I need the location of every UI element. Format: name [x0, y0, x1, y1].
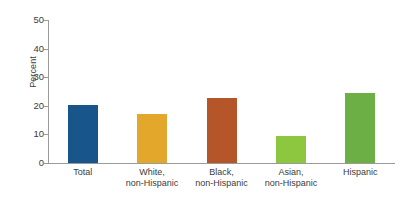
y-tick-label: 30 — [22, 72, 44, 82]
bar-chart: Percent 01020304050 TotalWhite,non-Hispa… — [0, 0, 407, 198]
y-tick-mark — [44, 20, 48, 21]
category-label-line1: Hispanic — [343, 167, 378, 177]
bar[interactable] — [68, 105, 98, 163]
bar[interactable] — [137, 114, 167, 163]
category-label-line1: Asian, — [278, 167, 303, 177]
y-tick-mark — [44, 106, 48, 107]
y-tick-mark — [44, 49, 48, 50]
category-label-line1: Black, — [209, 167, 234, 177]
y-tick-label: 40 — [22, 44, 44, 54]
plot-area — [48, 20, 395, 163]
y-tick-mark — [44, 77, 48, 78]
x-axis-category-label: Hispanic — [310, 167, 407, 178]
y-tick-label: 50 — [22, 15, 44, 25]
bar[interactable] — [207, 98, 237, 163]
y-tick-label: 10 — [22, 129, 44, 139]
y-tick-label: 20 — [22, 101, 44, 111]
bar[interactable] — [345, 93, 375, 163]
y-axis-line — [48, 20, 49, 163]
category-label-line1: Total — [73, 167, 92, 177]
x-axis-line — [48, 163, 395, 164]
category-label-line2: non-Hispanic — [241, 178, 341, 189]
y-tick-mark — [44, 163, 48, 164]
category-label-line1: White, — [139, 167, 165, 177]
y-tick-mark — [44, 134, 48, 135]
bar[interactable] — [276, 136, 306, 163]
